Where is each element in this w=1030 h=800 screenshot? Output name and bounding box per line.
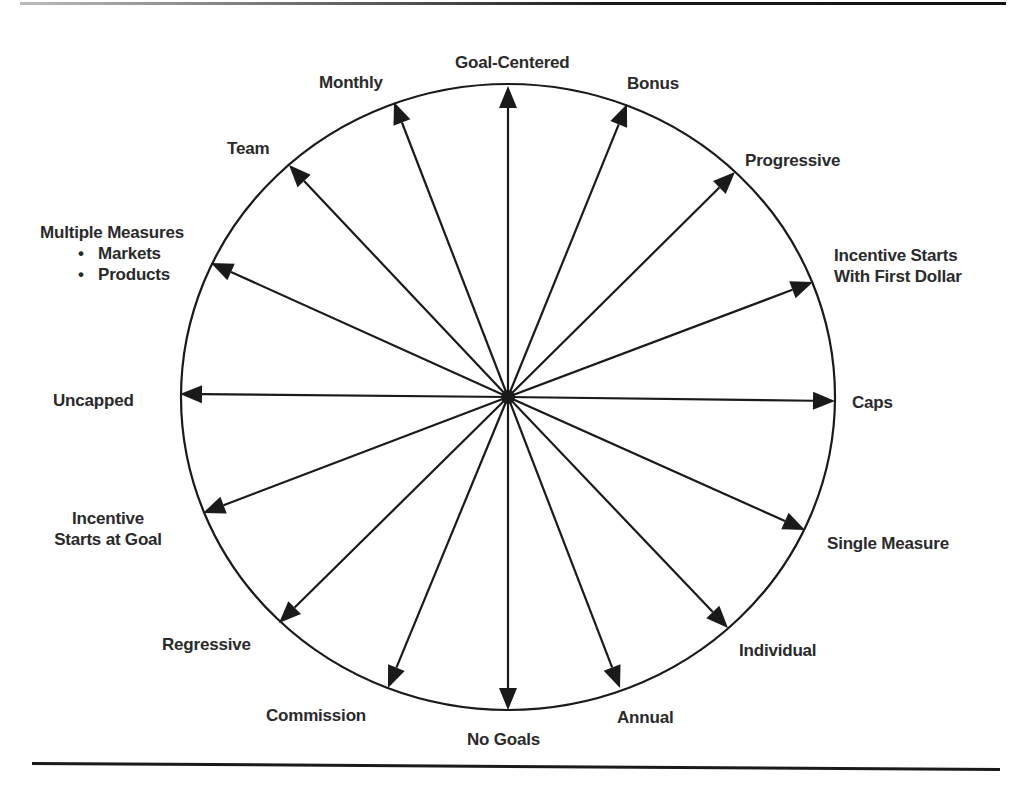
label-single-measure: Single Measure [827, 533, 949, 554]
label-goal-centered: Goal-Centered [455, 52, 570, 73]
hub [501, 390, 515, 404]
arrowhead-goal-centered-icon [499, 86, 517, 108]
label-text: Regressive [162, 635, 251, 654]
spoke-caps [508, 397, 813, 401]
label-individual: Individual [739, 640, 816, 661]
label-text: Caps [852, 393, 893, 412]
label-text: Goal-Centered [455, 53, 570, 72]
arrowhead-uncapped-icon [180, 385, 202, 403]
label-multiple-measures: Multiple Measures Markets Products [40, 222, 184, 285]
spoke-individual [508, 397, 713, 612]
spoke-progressive [508, 187, 719, 397]
label-incentive-starts-at-goal: Incentive Starts at Goal [42, 508, 174, 550]
arrowhead-multiple-measures-icon [211, 263, 235, 280]
arrowhead-caps-icon [813, 392, 835, 410]
label-text-line1: Incentive [42, 508, 174, 529]
spoke-bonus [508, 124, 619, 397]
label-incentive-starts-first-dollar: Incentive Starts With First Dollar [834, 245, 962, 287]
arrowhead-incentive-starts-at-goal-icon [203, 497, 227, 514]
spoke-incentive-starts-first-dollar [508, 290, 792, 397]
label-text: Progressive [745, 151, 840, 170]
label-text: Multiple Measures [40, 222, 184, 243]
label-team: Team [227, 138, 269, 159]
arrowhead-single-measure-icon [781, 513, 805, 530]
label-bonus: Bonus [627, 73, 679, 94]
label-annual: Annual [617, 707, 673, 728]
label-commission: Commission [266, 705, 366, 726]
spoke-regressive [295, 397, 508, 608]
label-no-goals: No Goals [467, 729, 540, 750]
label-text: Team [227, 139, 269, 158]
label-text: Bonus [627, 74, 679, 93]
label-progressive: Progressive [745, 150, 840, 171]
label-text: Uncapped [53, 391, 134, 410]
label-text-line2: With First Dollar [834, 266, 962, 287]
label-text-line2: Starts at Goal [42, 529, 174, 550]
spoke-commission [396, 397, 508, 668]
spoke-uncapped [202, 394, 508, 397]
label-text: Annual [617, 708, 673, 727]
label-uncapped: Uncapped [53, 390, 134, 411]
label-text: Single Measure [827, 534, 949, 553]
arrowhead-commission-icon [388, 664, 405, 688]
spoke-incentive-starts-at-goal [224, 397, 508, 505]
label-text: Monthly [319, 73, 383, 92]
label-text: Individual [739, 641, 816, 660]
arrowhead-monthly-icon [394, 102, 411, 126]
label-monthly: Monthly [319, 72, 383, 93]
arrowhead-annual-icon [604, 664, 621, 688]
arrowhead-incentive-starts-first-dollar-icon [789, 281, 813, 298]
arrowhead-no-goals-icon [499, 688, 517, 710]
arrowhead-bonus-icon [610, 104, 627, 128]
bullet-item-products: Products [40, 264, 184, 285]
label-text: No Goals [467, 730, 540, 749]
label-text-line1: Incentive Starts [834, 245, 962, 266]
label-text: Commission [266, 706, 366, 725]
bullet-item-markets: Markets [40, 243, 184, 264]
label-regressive: Regressive [162, 634, 251, 655]
label-caps: Caps [852, 392, 893, 413]
spoke-team [304, 181, 508, 397]
